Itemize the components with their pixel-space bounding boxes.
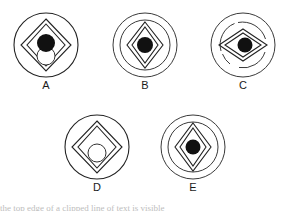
figure-a-label: A [11, 79, 81, 92]
figure-b[interactable]: B [110, 10, 180, 102]
figure-b-label: B [110, 79, 180, 92]
figure-e-graphic [158, 112, 228, 182]
figure-e-label: E [158, 181, 228, 194]
center-dot-icon [186, 140, 201, 155]
figure-sheet: A B C D [0, 0, 292, 211]
spiral-arc-top-icon [238, 22, 266, 39]
center-dot-icon [238, 38, 253, 53]
center-dot-icon [37, 34, 55, 52]
figure-d[interactable]: D [62, 112, 132, 204]
figure-d-graphic [62, 112, 132, 182]
figure-c-label: C [208, 79, 278, 92]
figure-b-graphic [110, 10, 180, 80]
figure-c-graphic [208, 10, 278, 80]
clipped-caption-text: the top edge of a clipped line of text i… [0, 203, 292, 211]
spiral-arc-bottom-icon [223, 54, 231, 64]
figure-e[interactable]: E [158, 112, 228, 204]
figure-a-graphic [11, 10, 81, 80]
figure-a[interactable]: A [11, 10, 81, 102]
center-dot-icon [137, 37, 153, 53]
figure-c[interactable]: C [208, 10, 278, 102]
hollow-circle-icon [88, 144, 106, 162]
figure-d-label: D [62, 181, 132, 194]
